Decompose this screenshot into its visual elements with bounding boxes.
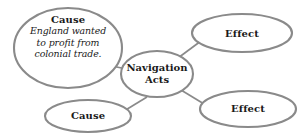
ellipse-cause-main[interactable] [14,8,122,88]
ellipse-effect-top[interactable] [192,14,292,52]
ellipse-cause-bottom[interactable] [45,100,131,132]
ellipse-effect-bottom[interactable] [200,91,296,127]
ellipse-navigation-acts[interactable] [121,51,193,97]
concept-map-diagram: Cause England wanted to profit from colo… [0,0,299,136]
diagram-canvas [0,0,299,136]
node-ellipse-group [14,8,296,132]
